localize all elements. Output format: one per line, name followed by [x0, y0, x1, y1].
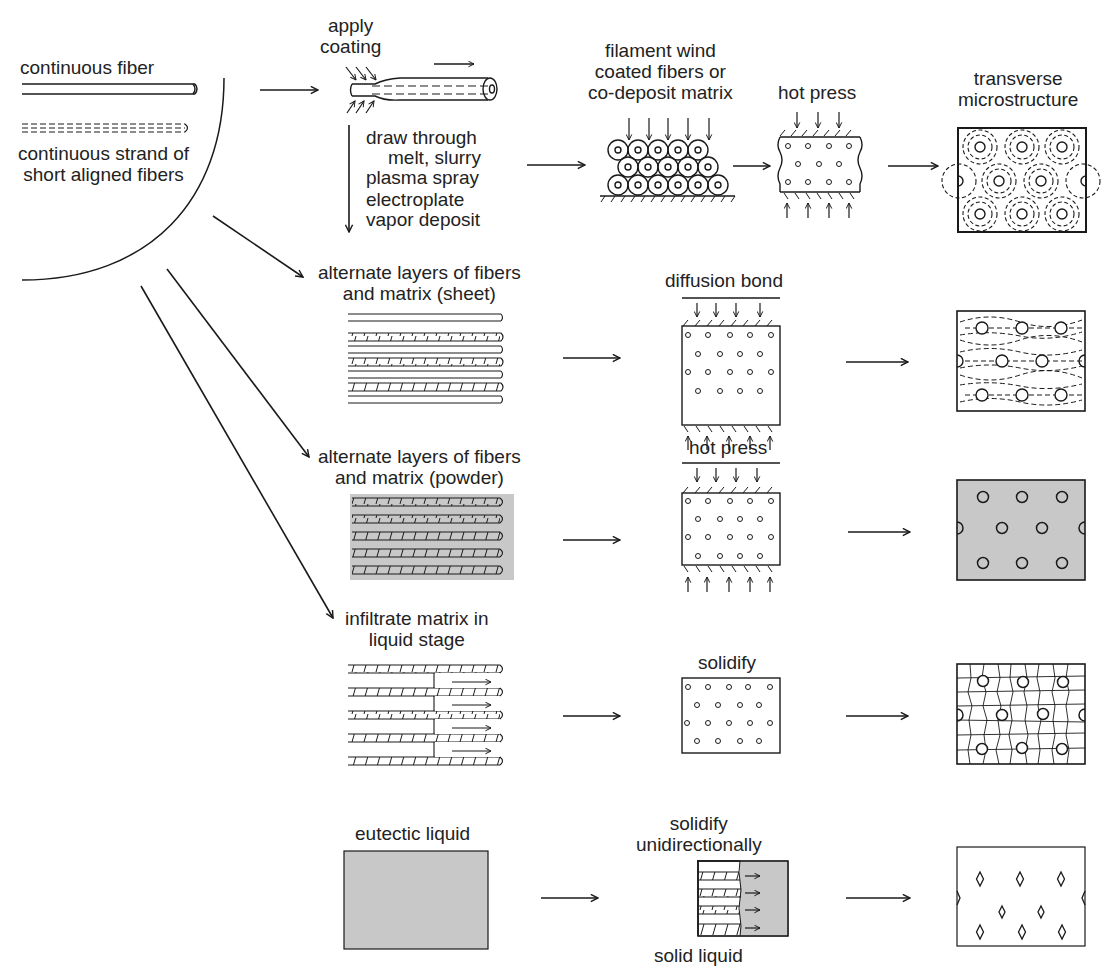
unidirectional-solidify-block	[697, 861, 788, 936]
powder-result-microstructure	[957, 480, 1085, 580]
source-boundary-arc	[22, 78, 224, 280]
diffusion-bond-block	[682, 298, 780, 450]
coating-fiber-icon	[351, 64, 498, 100]
process-diagram-graphics	[0, 0, 1111, 980]
hot-press-block-2	[682, 463, 780, 592]
filament-wound-stack-icon	[600, 118, 735, 202]
grain-result-microstructure	[957, 664, 1085, 764]
arrow-to-infiltrate-route	[141, 286, 333, 618]
sheet-layup-icon	[348, 314, 503, 403]
arrow-to-powder-route	[167, 269, 309, 457]
short-fiber-strand-icon	[22, 124, 185, 132]
arrow-to-sheet-route	[213, 216, 303, 277]
powder-layup-icon	[350, 494, 514, 580]
press-arrows-down	[629, 118, 709, 140]
sheet-result-microstructure	[957, 311, 1085, 411]
eutectic-liquid-block	[344, 851, 488, 949]
hot-press-block-1	[778, 112, 862, 218]
eutectic-result-microstructure	[957, 847, 1085, 946]
transverse-microstructure-image	[942, 128, 1100, 232]
continuous-fiber-icon	[22, 84, 197, 94]
solidify-block	[682, 678, 780, 753]
infiltrate-layup-icon	[348, 665, 503, 765]
